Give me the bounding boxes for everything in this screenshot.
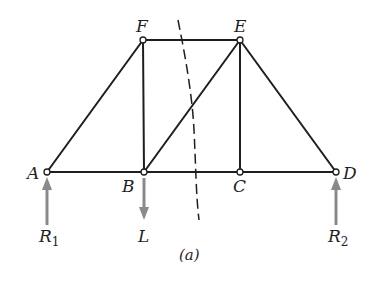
joint-A: [44, 169, 50, 175]
joint-D: [333, 169, 339, 175]
member-BF: [143, 40, 144, 172]
joint-E: [237, 37, 243, 43]
label-A: A: [25, 163, 39, 183]
label-B: B: [121, 176, 135, 196]
force-R1: [42, 177, 52, 225]
figure-caption: (a): [179, 246, 200, 264]
arrow-up-icon: [42, 177, 52, 190]
joint-C: [237, 169, 243, 175]
joint-F: [140, 37, 146, 43]
label-F: F: [135, 16, 149, 36]
member-ED: [240, 40, 336, 172]
force-R2: [331, 177, 341, 225]
label-R1: R1: [38, 226, 59, 249]
member-AF: [47, 40, 143, 172]
truss-members: [47, 40, 336, 172]
label-D: D: [342, 163, 357, 183]
label-E: E: [233, 16, 247, 36]
label-R2: R2: [327, 226, 348, 249]
label-L: L: [137, 226, 149, 246]
force-L: [139, 178, 149, 220]
member-BE: [144, 40, 240, 172]
joint-B: [141, 169, 147, 175]
arrow-up-icon: [331, 177, 341, 190]
truss-diagram: F E A B C D R1 L R2 (a): [0, 0, 372, 287]
label-C: C: [233, 176, 246, 196]
arrow-down-icon: [139, 207, 149, 220]
